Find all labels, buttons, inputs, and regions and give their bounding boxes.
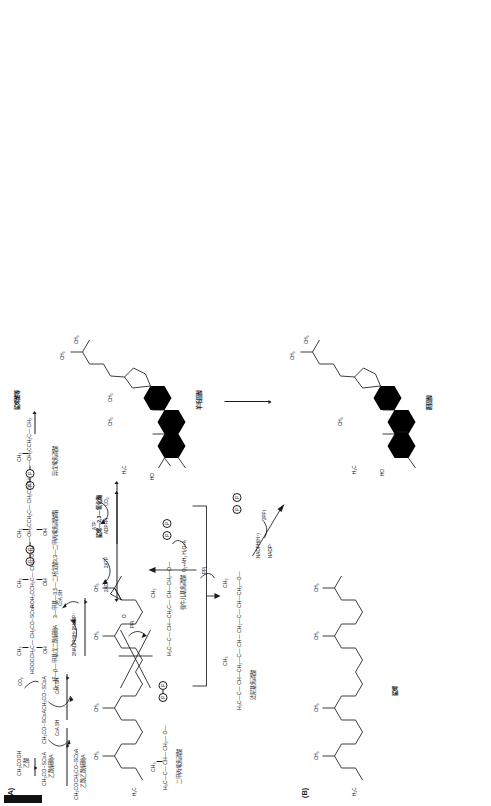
epoxide-methyl-3: CH₃ [94, 631, 99, 640]
h3c-squalene: H₃C [352, 787, 357, 796]
lanosterol-sidechain-methyl-1: CH₃ [60, 351, 65, 360]
cholesterol-h3c-label: H₃C [352, 465, 357, 474]
lanosterol-h3c-label: H₃C [122, 465, 127, 474]
arrow-head-lanosterol [114, 491, 118, 494]
epoxide-methyl-1: CH₃ [94, 751, 99, 760]
lanosterol-sidechain-methyl-2: CH₃ [74, 335, 79, 344]
page-edge-mark [4, 795, 42, 803]
cholesterol-label: 胆固醇 [426, 395, 431, 410]
lanosterol-label: 羊毛固醇 [196, 390, 201, 410]
cholesterol-biosynthesis-figure: (A) CH₃COOH 乙酸 CH₃CO~SCoA 乙酰辅酶A CH₃CO~SC… [0, 0, 491, 806]
arrow-shaft-to-lanosterol [116, 492, 117, 544]
cholesterol-ho-label: HO [380, 469, 385, 476]
arrow-head-cholesterol [268, 400, 271, 404]
cholesterol-methyl-1: CH₃ [338, 417, 343, 426]
lanosterol-structure [60, 326, 210, 476]
epoxide-methyl-4: CH₃ [94, 583, 99, 592]
cholesterol-sidechain-methyl-2: CH₃ [304, 335, 309, 344]
lanosterol-ho-label: HO [150, 473, 155, 480]
epoxide-methyl-2: CH₃ [94, 703, 99, 712]
epoxide-o-label: O [122, 614, 127, 618]
lanosterol-methyl-2: CH₃ [108, 417, 113, 426]
cholesterol-sidechain-methyl-1: CH₃ [290, 351, 295, 360]
squalene-epoxidase-label: 鲨烯—2,3—氧化酶 [96, 495, 101, 538]
cholesterol-structure [290, 326, 440, 476]
h3c-epoxide: H₃C [132, 787, 137, 796]
squalene-label: 鲨烯 [392, 686, 397, 696]
rotated-figure-canvas: (A) CH₃COOH 乙酸 CH₃CO~SCoA 乙酰辅酶A CH₃CO~SC… [0, 0, 491, 806]
lanosterol-methyl-1: CH₃ [108, 393, 113, 402]
arrow-shaft-to-cholesterol [224, 401, 270, 402]
